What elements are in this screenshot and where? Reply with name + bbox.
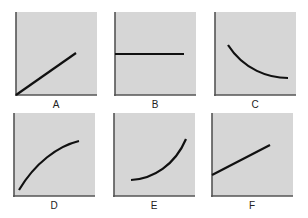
graph-d: D <box>13 113 95 197</box>
graph-e-label: E <box>113 200 195 211</box>
graph-e: E <box>113 113 195 197</box>
graph-d-plot <box>13 113 95 197</box>
graph-e-plot <box>113 113 195 197</box>
graph-f-plot <box>211 113 293 197</box>
graph-a-label: A <box>15 99 97 110</box>
graph-b: B <box>114 12 196 96</box>
graph-f-label: F <box>211 200 293 211</box>
graph-c-label: C <box>214 99 296 110</box>
graph-d-label: D <box>13 200 95 211</box>
graph-b-plot <box>114 12 196 96</box>
graph-c-plot <box>214 12 296 96</box>
graph-a: A <box>15 12 97 96</box>
graph-a-plot <box>15 12 97 96</box>
graph-b-label: B <box>114 99 196 110</box>
graph-c: C <box>214 12 296 96</box>
graph-f: F <box>211 113 293 197</box>
